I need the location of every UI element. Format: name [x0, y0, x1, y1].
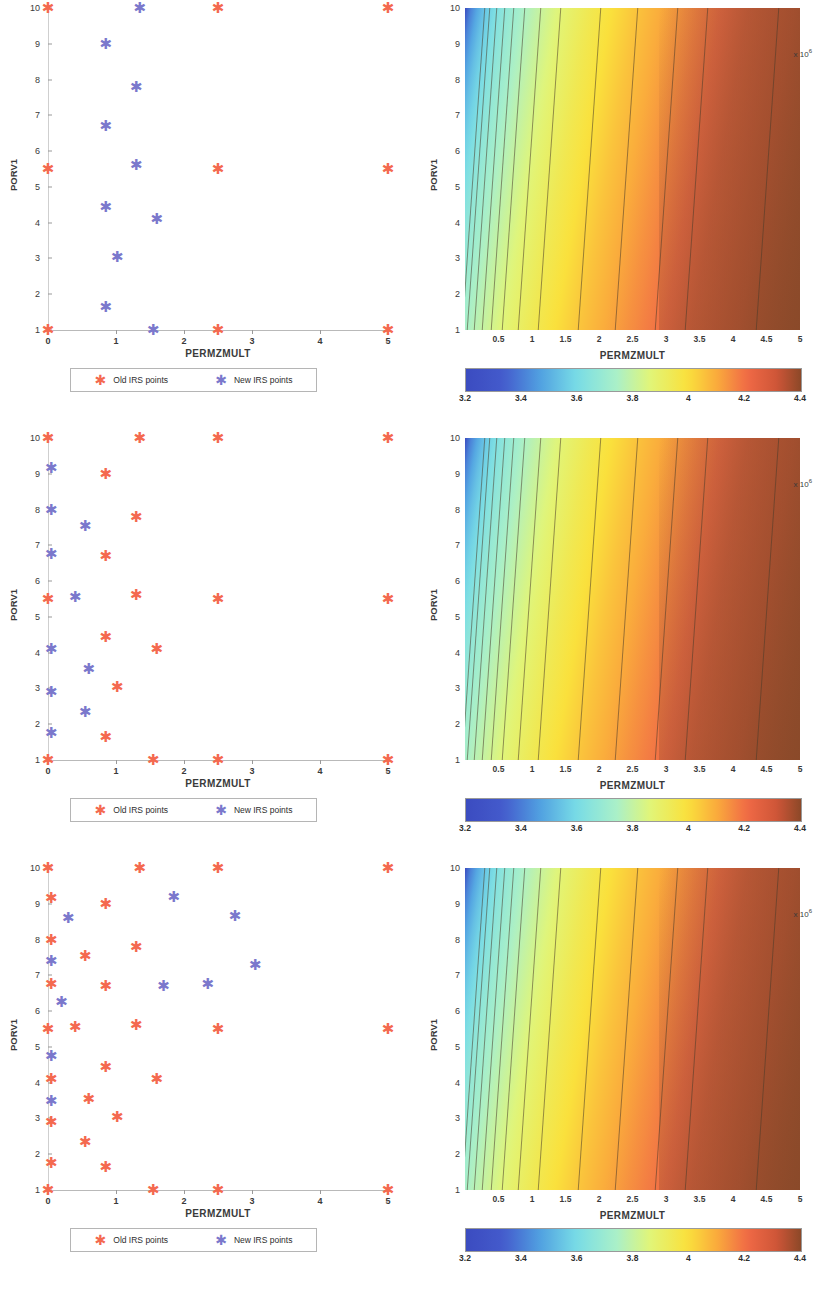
- legend-old-marker-icon: ✱: [95, 803, 107, 817]
- contour-x-tick-label: 3.5: [694, 1194, 706, 1204]
- colorbar: [465, 368, 802, 392]
- data-point-old: ✱: [212, 1184, 225, 1197]
- data-point-new: ✱: [45, 1094, 58, 1107]
- data-point-new: ✱: [147, 324, 160, 337]
- colorbar-exponent: x 106: [794, 908, 812, 919]
- legend-new-label: New IRS points: [234, 1235, 293, 1245]
- y-tick-label: 8: [35, 505, 40, 515]
- data-point-new: ✱: [130, 80, 143, 93]
- x-tick-mark: [116, 760, 117, 764]
- contour-x-tick-label: 1: [530, 1194, 535, 1204]
- x-tick-mark: [320, 330, 321, 334]
- data-point-old: ✱: [382, 2, 395, 15]
- colorbar-tick-label: 4.2: [738, 823, 750, 833]
- data-point-old: ✱: [382, 754, 395, 767]
- y-tick-label: 10: [30, 3, 40, 13]
- data-point-new: ✱: [45, 643, 58, 656]
- y-tick-label: 10: [30, 863, 40, 873]
- contour-y-tick-label: 5: [444, 182, 460, 192]
- contour-x-axis-label: PERMZMULT: [465, 1210, 800, 1221]
- data-point-old: ✱: [111, 680, 124, 693]
- x-tick-label: 4: [317, 1196, 322, 1206]
- legend-new-marker-icon: ✱: [215, 1233, 227, 1247]
- contour-x-tick-label: 2: [597, 334, 602, 344]
- contour-x-tick-label: 5: [798, 1194, 803, 1204]
- scatter-legend: ✱Old IRS points✱New IRS points: [70, 368, 317, 392]
- colorbar-tick-label: 3.8: [627, 823, 639, 833]
- y-tick-label: 1: [35, 755, 40, 765]
- data-point-old: ✱: [45, 1073, 58, 1086]
- colorbar-tick-label: 4.4: [794, 823, 806, 833]
- data-point-old: ✱: [79, 1135, 92, 1148]
- contour-y-tick-label: 6: [444, 146, 460, 156]
- data-point-old: ✱: [130, 1019, 143, 1032]
- contour-y-axis-label: PORV1: [428, 159, 439, 191]
- contour-y-tick-label: 9: [444, 39, 460, 49]
- data-point-old: ✱: [42, 2, 55, 15]
- data-point-old: ✱: [42, 163, 55, 176]
- contour-y-tick-label: 8: [444, 505, 460, 515]
- data-point-old: ✱: [45, 978, 58, 991]
- y-tick-label: 6: [35, 576, 40, 586]
- y-tick-label: 4: [35, 1078, 40, 1088]
- data-point-old: ✱: [212, 754, 225, 767]
- colorbar-tick-label: 3.4: [515, 823, 527, 833]
- y-tick-label: 2: [35, 719, 40, 729]
- x-tick-label: 3: [249, 766, 254, 776]
- x-tick-mark: [320, 760, 321, 764]
- data-point-new: ✱: [45, 503, 58, 516]
- contour-x-tick-label: 3: [664, 1194, 669, 1204]
- x-tick-mark: [184, 1190, 185, 1194]
- data-point-old: ✱: [150, 1073, 163, 1086]
- data-point-new: ✱: [45, 462, 58, 475]
- contour-x-tick-label: 4.5: [761, 764, 773, 774]
- data-point-old: ✱: [99, 980, 112, 993]
- colorbar-tick-label: 3.6: [571, 1253, 583, 1263]
- contour-x-tick-label: 3: [664, 334, 669, 344]
- colorbar: [465, 1228, 802, 1252]
- colorbar-tick-label: 3.4: [515, 1253, 527, 1263]
- x-tick-label: 2: [181, 766, 186, 776]
- colorbar-tick-label: 3.8: [627, 1253, 639, 1263]
- y-tick-label: 8: [35, 75, 40, 85]
- data-point-old: ✱: [130, 510, 143, 523]
- y-tick-label: 4: [35, 218, 40, 228]
- contour-y-tick-label: 7: [444, 970, 460, 980]
- colorbar-tick-label: 3.2: [459, 823, 471, 833]
- colorbar-exponent-superscript: 6: [809, 478, 812, 484]
- data-point-old: ✱: [130, 589, 143, 602]
- contour-y-tick-label: 5: [444, 612, 460, 622]
- contour-x-tick-label: 2: [597, 1194, 602, 1204]
- colorbar-tick-label: 3.2: [459, 1253, 471, 1263]
- contour-y-tick-label: 2: [444, 289, 460, 299]
- contour-y-axis-label: PORV1: [428, 1019, 439, 1051]
- scatter-legend: ✱Old IRS points✱New IRS points: [70, 1228, 317, 1252]
- contour-y-tick-label: 9: [444, 899, 460, 909]
- data-point-old: ✱: [130, 940, 143, 953]
- data-point-old: ✱: [147, 754, 160, 767]
- data-point-old: ✱: [212, 163, 225, 176]
- data-point-new: ✱: [201, 978, 214, 991]
- contour-high-region: [659, 438, 800, 760]
- data-point-new: ✱: [79, 705, 92, 718]
- y-tick-label: 9: [35, 899, 40, 909]
- contour-y-tick-label: 10: [444, 3, 460, 13]
- contour-y-tick-label: 8: [444, 935, 460, 945]
- data-point-old: ✱: [212, 1023, 225, 1036]
- contour-x-tick-label: 3: [664, 764, 669, 774]
- x-tick-mark: [116, 1190, 117, 1194]
- y-tick-label: 1: [35, 1185, 40, 1195]
- contour-x-tick-label: 2: [597, 764, 602, 774]
- contour-high-region: [659, 868, 800, 1190]
- figure-row-2: PORV1PERMZMULT12345678910012345✱✱✱✱✱✱✱✱✱…: [0, 430, 818, 850]
- scatter-plot-2: PORV1PERMZMULT12345678910012345✱✱✱✱✱✱✱✱✱…: [0, 430, 410, 850]
- contour-x-tick-label: 4: [731, 1194, 736, 1204]
- y-axis-label: PORV1: [8, 159, 19, 191]
- data-point-old: ✱: [99, 467, 112, 480]
- y-tick-label: 7: [35, 970, 40, 980]
- x-tick-mark: [116, 330, 117, 334]
- contour-y-tick-label: 10: [444, 863, 460, 873]
- data-point-new: ✱: [133, 2, 146, 15]
- data-point-new: ✱: [111, 250, 124, 263]
- y-tick-label: 2: [35, 1149, 40, 1159]
